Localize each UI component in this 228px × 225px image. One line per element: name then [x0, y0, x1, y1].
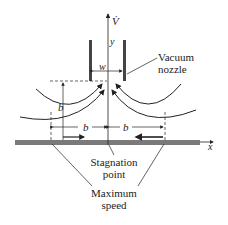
maxspeed-label-line2: speed [84, 199, 144, 211]
flow-rate-label: V̇ [112, 15, 119, 27]
ground-plane [15, 140, 200, 145]
maxspeed-label-line1: Maximum [84, 187, 144, 199]
nozzle-left-wall [89, 40, 92, 81]
nozzle-right-wall [123, 40, 126, 81]
x-axis-label: x [208, 141, 212, 153]
streamline-right-outer [116, 84, 181, 104]
nozzle-leader [127, 58, 157, 74]
nozzle-label-line1: Vacuum [158, 51, 194, 63]
stagnation-label-line2: point [84, 168, 144, 180]
streamline-left-outer [36, 84, 102, 104]
right-b-label: b [123, 121, 129, 133]
y-axis-label: y [110, 36, 114, 48]
stagnation-label-line1: Stagnation [84, 156, 144, 168]
nozzle-label-line2: nozzle [158, 63, 187, 75]
left-b-label: b [83, 121, 89, 133]
vacuum-nozzle-diagram: V̇ y x w b b b Vacuum nozzle Stagnation … [0, 0, 228, 225]
height-b-label: b [58, 101, 64, 113]
width-label: w [99, 61, 106, 73]
stagnation-leader [109, 145, 114, 155]
